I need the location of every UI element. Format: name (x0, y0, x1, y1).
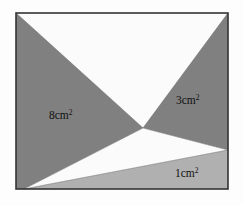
label-right-area-value: 3cm (176, 94, 196, 106)
label-right-area-exponent: 2 (196, 93, 200, 102)
label-left-area-exponent: 2 (69, 108, 73, 117)
figure-canvas: 8cm2 3cm2 1cm2 (0, 0, 243, 205)
geometry-figure: 8cm2 3cm2 1cm2 (0, 0, 243, 205)
label-left-area-value: 8cm (49, 109, 69, 121)
label-bottom-area-exponent: 2 (195, 166, 199, 175)
label-bottom-area-value: 1cm (175, 167, 195, 179)
